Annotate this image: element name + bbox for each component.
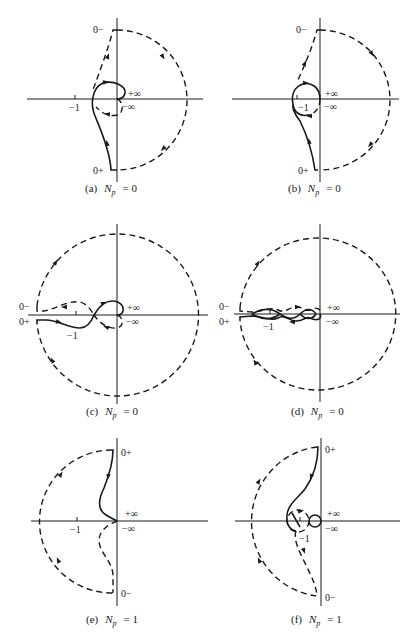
- label-neg-inf: −∞: [325, 523, 338, 534]
- label-minus-one: −1: [263, 321, 274, 332]
- label-bottom: 0+: [19, 316, 30, 327]
- negative-freq-branch: [99, 521, 117, 593]
- nyquist-figure: 0− 0+ +∞ −∞ −1 (a) Np = 0 0− 0+ +∞ −∞ −1: [0, 0, 417, 639]
- label-bottom: 0−: [121, 588, 132, 599]
- label-pos-inf: +∞: [327, 302, 340, 313]
- negative-freq-branch: [240, 307, 321, 314]
- loop-connector: [292, 513, 300, 527]
- label-top: 0−: [19, 301, 30, 312]
- positive-freq-branch: [100, 450, 117, 521]
- panel-e: 0+ 0− +∞ −∞ −1 (e) Np = 1: [31, 438, 208, 629]
- label-pos-inf: +∞: [128, 88, 141, 99]
- label-neg-inf: −∞: [122, 101, 135, 112]
- caption-a: (a) Np = 0: [85, 178, 138, 198]
- label-bottom: 0−: [325, 592, 336, 603]
- label-minus-one: −1: [299, 533, 310, 544]
- label-bottom: 0+: [298, 165, 309, 176]
- caption-e: (e) Np = 1: [86, 609, 138, 629]
- positive-freq-branch: [287, 447, 318, 531]
- infinite-arc: [320, 30, 390, 170]
- label-minus-one: −1: [67, 330, 78, 341]
- label-neg-inf: −∞: [324, 101, 337, 112]
- caption-c: (c) Np = 0: [86, 401, 139, 421]
- label-pos-inf: +∞: [327, 508, 340, 519]
- label-top: 0−: [219, 301, 230, 312]
- label-top: 0−: [296, 24, 307, 35]
- panel-d: 0− 0+ +∞ −∞ −1 (d) Np = 0: [219, 224, 400, 421]
- label-top: 0+: [325, 444, 336, 455]
- label-neg-inf: −∞: [326, 316, 339, 327]
- label-pos-inf: +∞: [127, 302, 140, 313]
- infinite-arc: [117, 30, 187, 170]
- panel-f: 0+ 0− +∞ −∞ −1 (f) Np = 1: [235, 438, 400, 629]
- negative-freq-branch: [297, 30, 320, 82]
- label-bottom: 0+: [93, 165, 104, 176]
- label-minus-one: −1: [298, 102, 309, 113]
- label-minus-one: −1: [69, 102, 80, 113]
- positive-freq-branch: [92, 82, 125, 170]
- panel-a: 0− 0+ +∞ −∞ −1 (a) Np = 0: [27, 18, 203, 198]
- label-pos-inf: +∞: [325, 88, 338, 99]
- caption-f: (f) Np = 1: [291, 609, 342, 629]
- caption-b: (b) Np = 0: [288, 178, 341, 198]
- label-bottom: 0+: [219, 316, 230, 327]
- label-minus-one: −1: [70, 524, 81, 535]
- label-top: 0+: [121, 447, 132, 458]
- panel-b: 0− 0+ +∞ −∞ −1 (b) Np = 0: [232, 18, 399, 198]
- encircle-loop-upper: [292, 84, 320, 104]
- caption-d: (d) Np = 0: [291, 401, 344, 421]
- panel-c: 0− 0+ +∞ −∞ −1 (c) Np = 0: [19, 224, 208, 421]
- encircle-loop-right: [308, 99, 320, 115]
- label-neg-inf: −∞: [126, 316, 139, 327]
- label-neg-inf: −∞: [122, 523, 135, 534]
- positive-freq-branch: [293, 104, 318, 170]
- label-pos-inf: +∞: [125, 508, 138, 519]
- label-top: 0−: [93, 24, 104, 35]
